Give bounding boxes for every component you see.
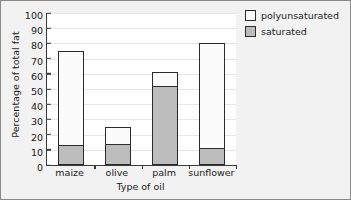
x-axis-tick-label: olive (93, 167, 140, 178)
y-axis-tick-label: 90 (31, 25, 47, 36)
bar-group[interactable] (105, 127, 131, 165)
y-axis-tick: 100 (25, 4, 47, 23)
y-axis-tick-label: 100 (25, 10, 47, 21)
legend-item-label: polyunsaturated (261, 10, 339, 21)
bar-segment-saturated[interactable] (58, 145, 84, 165)
x-axis-tick-label: palm (141, 167, 188, 178)
y-axis-tick-label: 60 (31, 70, 47, 81)
y-axis-title: Percentage of total fat (10, 10, 21, 160)
y-axis-tick-label: 70 (31, 55, 47, 66)
y-axis-tick-label: 40 (31, 101, 47, 112)
legend-item-saturated[interactable]: saturated (245, 26, 339, 37)
y-axis-tick-label: 20 (31, 131, 47, 142)
chart-figure: Percentage of total fat 0102030405060708… (0, 0, 351, 200)
legend-swatch-icon (245, 26, 256, 37)
y-axis-tick-label: 80 (31, 40, 47, 51)
bar-group[interactable] (58, 51, 84, 165)
bar-series-container (47, 13, 236, 165)
plot-area: 0102030405060708090100 (46, 13, 236, 166)
bar-segment-saturated[interactable] (199, 148, 225, 165)
legend-item-polyunsaturated[interactable]: polyunsaturated (245, 10, 339, 21)
bar-segment-polyunsaturated[interactable] (105, 127, 131, 145)
bar-segment-saturated[interactable] (152, 86, 178, 165)
y-axis-tick-label: 10 (31, 146, 47, 157)
y-axis-tick-label: 50 (31, 86, 47, 97)
x-axis-title: Type of oil (46, 181, 235, 192)
x-axis-tick-label: sunflower (188, 167, 235, 178)
bar-segment-polyunsaturated[interactable] (58, 51, 84, 147)
bar-segment-polyunsaturated[interactable] (199, 43, 225, 149)
x-axis-tick-label: maize (46, 167, 93, 178)
legend-swatch-icon (245, 10, 256, 21)
legend-item-label: saturated (261, 26, 307, 37)
bar-segment-saturated[interactable] (105, 144, 131, 165)
x-axis-tick-mark (236, 165, 237, 169)
bar-group[interactable] (152, 72, 178, 165)
chart-legend: polyunsaturated saturated (245, 10, 339, 42)
y-axis-tick-label: 30 (31, 116, 47, 127)
bar-group[interactable] (199, 43, 225, 165)
